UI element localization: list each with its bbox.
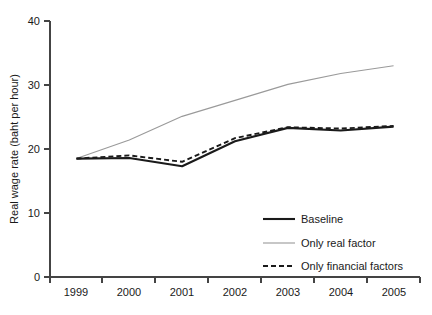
- chart-container: 40 30 20 10 0 1999 2000 2001 2002 2003 2…: [0, 0, 432, 315]
- line-chart-figure: 40 30 20 10 0 1999 2000 2001 2002 2003 2…: [0, 0, 432, 315]
- y-tick-label-0: 0: [34, 271, 40, 283]
- legend-label-only-real-factor: Only real factor: [301, 237, 376, 249]
- x-tick-label-2000: 2000: [117, 286, 141, 298]
- legend-label-only-financial-factors: Only financial factors: [301, 260, 404, 272]
- y-tick-label-20: 20: [28, 143, 40, 155]
- x-tick-label-2005: 2005: [382, 286, 406, 298]
- y-axis-ticks: [44, 21, 50, 277]
- x-axis-ticks: [50, 277, 420, 283]
- y-axis-title: Real wage rate (baht per hour): [8, 74, 20, 224]
- x-tick-label-2003: 2003: [276, 286, 300, 298]
- y-tick-label-30: 30: [28, 79, 40, 91]
- y-tick-label-40: 40: [28, 15, 40, 27]
- x-tick-label-1999: 1999: [64, 286, 88, 298]
- x-tick-label-2002: 2002: [223, 286, 247, 298]
- x-tick-label-2001: 2001: [170, 286, 194, 298]
- x-tick-label-2004: 2004: [329, 286, 353, 298]
- y-tick-label-10: 10: [28, 207, 40, 219]
- legend-label-baseline: Baseline: [301, 213, 343, 225]
